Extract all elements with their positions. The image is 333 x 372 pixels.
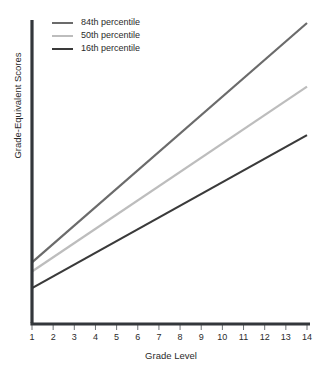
x-axis-tick-label: 9 [191,331,211,343]
line-chart: 84th percentile 50th percentile 16th per… [0,0,333,372]
x-axis-tick-label: 8 [170,331,190,343]
series-line-84th [32,23,307,262]
x-axis-tick-label: 2 [43,331,63,343]
legend-swatch-84th [52,22,73,24]
series-lines [32,23,307,288]
series-line-50th [32,87,307,272]
legend-item-50th: 50th percentile [52,29,202,42]
x-axis-tick-label: 13 [276,331,296,343]
y-axis-title: Grade-Equivalent Scores [12,36,23,176]
series-line-16th [32,135,307,288]
x-axis-tick-label: 14 [297,331,317,343]
axis-ticks [32,325,307,330]
x-axis-tick-label: 12 [255,331,275,343]
x-axis-tick-label: 5 [107,331,127,343]
x-axis-tick-label: 3 [64,331,84,343]
x-axis-tick-labels: 1234567891011121314 [0,331,333,345]
plot-area [0,0,333,372]
x-axis-tick-label: 7 [149,331,169,343]
axis-lines [30,20,310,324]
x-axis-tick-label: 11 [234,331,254,343]
x-axis-tick-label: 1 [22,331,42,343]
legend-item-16th: 16th percentile [52,42,202,55]
x-axis-tick-label: 4 [85,331,105,343]
legend-swatch-16th [52,48,73,50]
legend-item-84th: 84th percentile [52,16,202,29]
x-axis-tick-label: 6 [128,331,148,343]
x-axis-title: Grade Level [31,350,311,361]
legend-swatch-50th [52,35,73,37]
legend-label-84th: 84th percentile [81,16,140,29]
chart-legend: 84th percentile 50th percentile 16th per… [52,16,202,55]
legend-label-50th: 50th percentile [81,29,140,42]
legend-label-16th: 16th percentile [81,42,140,55]
x-axis-tick-label: 10 [212,331,232,343]
